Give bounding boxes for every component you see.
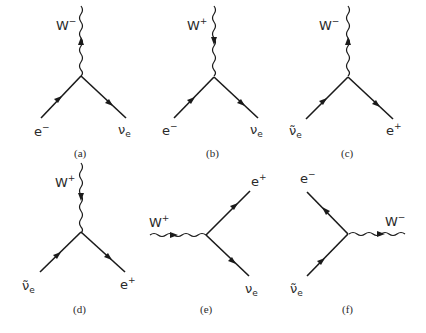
- boson-label: W−: [319, 16, 339, 33]
- arrow-up-icon: [345, 37, 351, 45]
- outgoing-label: νe: [118, 122, 131, 139]
- caption-d: (d): [73, 303, 86, 316]
- outgoing-label: e+: [386, 121, 402, 138]
- diagram-d: W+ ν̃e e+ (d): [22, 163, 136, 316]
- caption-e: (e): [200, 303, 213, 316]
- lower-label: ν̃e: [290, 281, 303, 298]
- diagram-b: W+ e− νe (b): [162, 6, 263, 160]
- upper-label: e−: [300, 169, 316, 186]
- outgoing-label: e+: [120, 275, 136, 292]
- lower-label: νe: [245, 281, 258, 298]
- boson-label: W−: [56, 16, 76, 33]
- lower-fermion-line: [307, 234, 348, 276]
- upper-label: e+: [251, 172, 267, 189]
- outgoing-fermion-line: [81, 76, 126, 118]
- incoming-label: e−: [34, 122, 50, 139]
- arrow-right-icon: [170, 232, 178, 238]
- feynman-diagram-figure: W− e− νe (a) W+ e− νe (b) W− ν̃e e+ (c): [0, 0, 426, 333]
- diagram-f: e− W− ν̃e (f): [290, 169, 405, 316]
- caption-a: (a): [74, 147, 87, 160]
- arrow-up-icon: [78, 37, 84, 45]
- incoming-label: ν̃e: [22, 278, 35, 295]
- boson-label: W−: [385, 212, 405, 229]
- arrow-right-icon: [377, 231, 385, 237]
- outgoing-fermion-line: [214, 77, 258, 118]
- diagram-c: W− ν̃e e+ (c): [289, 6, 402, 160]
- outgoing-fermion-line: [81, 232, 125, 272]
- caption-c: (c): [341, 147, 354, 160]
- caption-f: (f): [342, 303, 353, 316]
- boson-label: W+: [55, 173, 75, 190]
- incoming-label: ν̃e: [289, 123, 302, 140]
- upper-fermion-line: [206, 191, 250, 235]
- outgoing-label: νe: [250, 122, 263, 139]
- arrow-down-icon: [211, 37, 217, 45]
- boson-label: W+: [149, 213, 169, 230]
- diagram-e: W+ e+ νe (e): [149, 172, 267, 316]
- incoming-label: e−: [162, 121, 178, 138]
- boson-label: W+: [187, 16, 207, 33]
- diagram-a: W− e− νe (a): [34, 6, 131, 160]
- lower-fermion-line: [206, 235, 249, 276]
- outgoing-fermion-line: [348, 77, 393, 119]
- caption-b: (b): [206, 147, 219, 160]
- incoming-fermion-line: [40, 232, 81, 272]
- arrow-down-icon: [78, 193, 84, 201]
